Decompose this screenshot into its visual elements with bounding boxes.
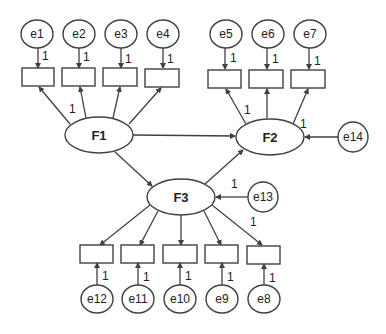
indicator-box[interactable]: [291, 70, 325, 88]
indicator-box[interactable]: [22, 68, 54, 86]
error-e13[interactable]: e13: [248, 182, 278, 212]
latent-f2[interactable]: F2: [236, 119, 304, 155]
loading-f3-x11: [140, 211, 158, 245]
path-f1-f3: [115, 152, 152, 186]
indicator-box[interactable]: [249, 70, 283, 88]
svg-text:e14: e14: [343, 130, 363, 144]
weight-label: 1: [269, 271, 276, 285]
weight-label: 1: [143, 270, 150, 284]
svg-text:e6: e6: [261, 27, 275, 41]
svg-text:e9: e9: [215, 292, 229, 306]
svg-text:e12: e12: [87, 292, 107, 306]
svg-text:e8: e8: [257, 292, 271, 306]
sem-diagram: e1 e2 e3 e4 1 1 1 1 1: [0, 0, 386, 334]
error-e14[interactable]: e14: [338, 122, 368, 152]
weight-label: 1: [69, 102, 76, 116]
indicator-box[interactable]: [145, 69, 179, 87]
svg-text:e10: e10: [170, 292, 190, 306]
weight-label: 1: [83, 50, 90, 64]
svg-text:e11: e11: [128, 292, 147, 306]
indicator-box[interactable]: [80, 245, 113, 263]
error-e10[interactable]: e10: [164, 285, 196, 313]
weight-label: 1: [231, 177, 238, 191]
error-e8[interactable]: e8: [248, 285, 280, 313]
loading-f1-x3: [113, 87, 120, 118]
weight-label: 1: [250, 215, 257, 229]
f2-indicator-group: e5 e6 e7 1 1 1 1 1: [208, 20, 326, 131]
error-e6[interactable]: e6: [252, 20, 284, 48]
svg-text:e3: e3: [114, 27, 128, 41]
indicator-box[interactable]: [247, 246, 280, 264]
svg-text:F1: F1: [91, 128, 106, 143]
weight-label: 1: [244, 103, 251, 117]
svg-text:e1: e1: [30, 27, 44, 41]
svg-text:F2: F2: [262, 130, 277, 145]
weight-label: 1: [227, 270, 234, 284]
svg-text:F3: F3: [173, 190, 188, 205]
f1-indicator-group: e1 e2 e3 e4 1 1 1 1 1: [21, 20, 179, 124]
weight-label: 1: [230, 51, 237, 65]
error-e4[interactable]: e4: [147, 20, 179, 48]
svg-text:e7: e7: [303, 27, 317, 41]
error-e2[interactable]: e2: [63, 20, 95, 48]
error-e5[interactable]: e5: [210, 20, 242, 48]
weight-label: 1: [125, 52, 132, 66]
latent-f1[interactable]: F1: [65, 117, 133, 153]
error-e3[interactable]: e3: [105, 20, 137, 48]
error-e7[interactable]: e7: [294, 20, 326, 48]
weight-label: 1: [42, 49, 49, 63]
error-e1[interactable]: e1: [21, 20, 53, 48]
loading-f3-x9: [204, 211, 221, 245]
indicator-box[interactable]: [121, 245, 154, 263]
loading-f1-x4: [129, 88, 161, 124]
loading-f2-x5: [226, 89, 246, 124]
loading-f1-x2: [80, 87, 86, 118]
f3-indicator-group: 1 1 1 1 1 1 e12 e11 e10 e9: [80, 205, 280, 313]
latent-f3[interactable]: F3: [147, 179, 215, 215]
error-e11[interactable]: e11: [122, 285, 154, 313]
indicator-box[interactable]: [205, 245, 238, 263]
indicator-box[interactable]: [208, 70, 241, 88]
indicator-box[interactable]: [163, 245, 197, 263]
weight-label: 1: [314, 54, 321, 68]
weight-label: 1: [185, 269, 192, 283]
weight-label: 1: [272, 52, 279, 66]
svg-text:e2: e2: [72, 27, 86, 41]
weight-label: 1: [102, 269, 109, 283]
svg-text:e5: e5: [219, 27, 233, 41]
indicator-box[interactable]: [62, 68, 95, 86]
path-f1-f2: [133, 135, 235, 136]
error-e12[interactable]: e12: [81, 285, 113, 313]
error-e9[interactable]: e9: [206, 285, 238, 313]
svg-text:e4: e4: [156, 27, 170, 41]
weight-label: 1: [167, 52, 174, 66]
loading-f1-x1: [39, 87, 70, 124]
svg-text:e13: e13: [253, 190, 273, 204]
indicator-box[interactable]: [103, 68, 137, 86]
